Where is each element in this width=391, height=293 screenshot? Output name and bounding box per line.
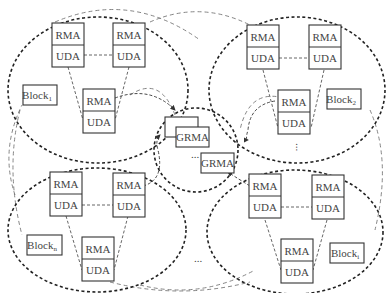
block-label-box: Blocki bbox=[330, 243, 364, 263]
block-subscript: 2 bbox=[352, 99, 356, 107]
block-label-box: Block1 bbox=[22, 85, 57, 105]
rma-label: RMA bbox=[281, 96, 306, 108]
grma-ellipsis: ... bbox=[191, 148, 200, 160]
rma-label: RMA bbox=[86, 95, 111, 107]
uda-label: UDA bbox=[253, 201, 277, 213]
uda-label: UDA bbox=[313, 52, 337, 64]
agent-node[interactable]: RMA UDA bbox=[52, 23, 84, 67]
agent-node[interactable]: RMA UDA bbox=[247, 25, 279, 69]
agent-node[interactable]: RMA UDA bbox=[312, 175, 344, 219]
uda-label: UDA bbox=[87, 116, 111, 128]
block-label: Block bbox=[22, 89, 49, 101]
uda-label: UDA bbox=[117, 200, 141, 212]
block-subscript: i bbox=[357, 253, 359, 261]
agent-node[interactable]: RMA UDA bbox=[83, 89, 115, 133]
rma-label: RMA bbox=[315, 181, 340, 193]
block-2: RMA UDA RMA UDA RMA UDA Block2 bbox=[247, 25, 361, 134]
uda-label: UDA bbox=[316, 202, 340, 214]
rma-label: RMA bbox=[116, 179, 141, 191]
rma-label: RMA bbox=[312, 31, 337, 43]
architecture-diagram: GRMA ... GRMA ... ... RMA UDA RMA UDA RM… bbox=[0, 0, 391, 293]
grma-cluster: GRMA ... GRMA bbox=[165, 117, 234, 173]
svg-text:Block2: Block2 bbox=[326, 93, 356, 107]
rma-label: RMA bbox=[284, 245, 309, 257]
block-label-box: Block2 bbox=[326, 89, 361, 109]
uda-label: UDA bbox=[117, 50, 141, 62]
uda-label: UDA bbox=[54, 199, 78, 211]
right-ellipsis: ... bbox=[294, 143, 306, 152]
grma-box[interactable]: GRMA bbox=[201, 153, 234, 173]
rma-label: RMA bbox=[55, 29, 80, 41]
block-i: RMA UDA RMA UDA RMA UDA Blocki bbox=[249, 174, 364, 283]
agent-node[interactable]: RMA UDA bbox=[249, 174, 281, 218]
svg-text:Blocki: Blocki bbox=[331, 247, 359, 261]
bottom-ellipsis: ... bbox=[194, 252, 203, 264]
block-label: Block bbox=[331, 247, 358, 259]
svg-text:Block1: Block1 bbox=[22, 89, 52, 103]
uda-label: UDA bbox=[86, 264, 110, 276]
uda-label: UDA bbox=[285, 266, 309, 278]
uda-label: UDA bbox=[251, 52, 275, 64]
uda-label: UDA bbox=[282, 117, 306, 129]
rma-label: RMA bbox=[250, 31, 275, 43]
grma-label: GRMA bbox=[176, 131, 209, 143]
rma-label: RMA bbox=[53, 178, 78, 190]
grma-label: GRMA bbox=[201, 157, 234, 169]
block-label: Block bbox=[27, 239, 54, 251]
rma-label: RMA bbox=[116, 29, 141, 41]
agent-node[interactable]: RMA UDA bbox=[113, 23, 145, 67]
agent-node[interactable]: RMA UDA bbox=[82, 237, 114, 281]
uda-label: UDA bbox=[56, 50, 80, 62]
block-subscript: n bbox=[53, 245, 57, 253]
agent-node[interactable]: RMA UDA bbox=[278, 90, 310, 134]
rma-label: RMA bbox=[85, 243, 110, 255]
block-label: Block bbox=[326, 93, 353, 105]
svg-text:Blockn: Blockn bbox=[27, 239, 57, 253]
rma-label: RMA bbox=[252, 180, 277, 192]
agent-node[interactable]: RMA UDA bbox=[50, 172, 82, 216]
grma-box[interactable]: GRMA bbox=[176, 127, 209, 147]
block-label-box: Blockn bbox=[27, 235, 62, 255]
agent-node[interactable]: RMA UDA bbox=[113, 173, 145, 217]
agent-node[interactable]: RMA UDA bbox=[281, 239, 313, 283]
block-n: RMA UDA RMA UDA RMA UDA Blockn bbox=[27, 172, 145, 281]
block-subscript: 1 bbox=[48, 95, 52, 103]
block-1: RMA UDA RMA UDA RMA UDA Block1 bbox=[22, 23, 145, 133]
agent-node[interactable]: RMA UDA bbox=[309, 25, 341, 69]
